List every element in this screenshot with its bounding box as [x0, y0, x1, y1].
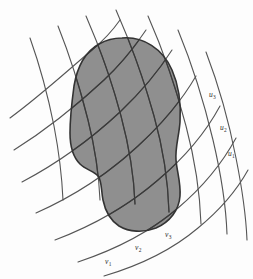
label-v3-base: v — [165, 230, 168, 239]
label-u1-sub: 1 — [232, 153, 235, 159]
v-curve-5 — [178, 30, 227, 234]
label-v2-base: v — [135, 243, 138, 252]
figure-root: u3 u2 u1 v1 v2 v3 — [0, 0, 253, 279]
coordinate-diagram — [0, 0, 253, 279]
label-u3: u3 — [209, 91, 216, 99]
label-v3: v3 — [165, 231, 171, 239]
v-curve-inside-6 — [206, 52, 247, 240]
label-u2-sub: 2 — [224, 127, 227, 133]
label-v2: v2 — [135, 244, 141, 252]
v-curve-inside-5 — [178, 30, 227, 234]
v-curve-6 — [206, 52, 247, 240]
label-v1: v1 — [105, 258, 111, 266]
label-u1: u1 — [228, 150, 235, 158]
label-u2: u2 — [220, 124, 227, 132]
label-v1-base: v — [105, 257, 108, 266]
label-u3-sub: 3 — [213, 94, 216, 100]
